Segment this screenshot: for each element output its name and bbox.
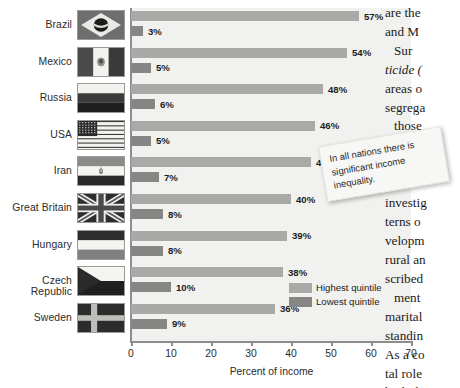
flag-czech-republic-icon [77,266,125,296]
value-label-lowest-quintile: 7% [164,172,178,183]
body-text-line: ment [385,289,460,308]
country-label-hungary: Hungary [0,239,72,250]
legend-swatch-highest-quintile [289,283,312,293]
bar-highest-quintile-mexico [131,48,347,58]
bar-lowest-quintile-mexico [131,63,151,73]
value-label-highest-quintile: 57% [364,11,383,22]
legend-label-lowest-quintile: Lowest quintile [316,296,379,307]
country-label-usa: USA [0,129,72,140]
bar-highest-quintile-great-britain [131,194,291,204]
value-label-lowest-quintile: 8% [168,209,182,220]
value-label-highest-quintile: 46% [320,120,339,131]
flag-russia-icon [77,83,125,113]
body-text-block-bottom: investigterns ovelopmrural anscribedment… [385,136,460,388]
legend-item-highest-quintile: Highest quintile [289,282,385,295]
body-text-line: terns o [385,213,460,232]
value-label-highest-quintile: 38% [288,267,307,278]
country-label-czech-republic: Czech Republic [0,275,72,297]
bar-lowest-quintile-russia [131,99,155,109]
x-tick-label: 20 [205,348,217,359]
flag-hungary-icon [77,230,125,260]
flag-usa-icon [77,120,125,150]
value-label-lowest-quintile: 10% [176,282,195,293]
x-tick-label: 30 [245,348,257,359]
bar-highest-quintile-iran [131,157,311,167]
value-label-highest-quintile: 39% [292,230,311,241]
body-text-line: scribed [385,270,460,289]
bar-highest-quintile-russia [131,84,323,94]
flag-brazil-icon [77,10,125,40]
chart-legend: Highest quintile Lowest quintile [289,282,385,309]
value-label-highest-quintile: 54% [352,47,371,58]
body-text-line: Sur [385,42,460,61]
value-label-highest-quintile: 48% [328,84,347,95]
body-text-line: marital [385,308,460,327]
body-text-line: investig [385,194,460,213]
x-tick [131,341,133,346]
bar-lowest-quintile-iran [131,172,159,182]
bar-highest-quintile-czech-republic [131,267,283,277]
body-text-line: rural an [385,251,460,270]
body-text-column: are theand MSurticide (areas osegregatho… [385,0,460,388]
legend-item-lowest-quintile: Lowest quintile [289,296,385,309]
legend-label-highest-quintile: Highest quintile [316,282,382,293]
body-text-line: both th [385,383,460,388]
country-label-iran: Iran [0,165,72,176]
bar-highest-quintile-hungary [131,231,287,241]
body-text-line: standin [385,327,460,346]
x-tick-label: 60 [365,348,377,359]
flag-iran-icon [77,156,125,186]
flag-sweden-icon [77,303,125,333]
value-label-highest-quintile: 40% [296,194,315,205]
body-text-line: tal role [385,365,460,384]
value-label-lowest-quintile: 5% [156,135,170,146]
value-label-lowest-quintile: 3% [148,26,162,37]
body-text-line: velopm [385,232,460,251]
value-label-lowest-quintile: 9% [172,318,186,329]
body-text-line: and M [385,23,460,42]
bar-lowest-quintile-sweden [131,319,167,329]
country-label-russia: Russia [0,92,72,103]
x-tick [371,341,373,346]
country-label-great-britain: Great Britain [0,202,72,213]
x-tick-label: 0 [128,348,134,359]
body-text-block-top: are theand MSurticide (areas osegregatho… [385,0,460,136]
x-tick-label: 10 [165,348,177,359]
bar-lowest-quintile-hungary [131,246,163,256]
x-tick-label: 50 [325,348,337,359]
bar-lowest-quintile-czech-republic [131,282,171,292]
flag-mexico-icon [77,47,125,77]
bar-lowest-quintile-brazil [131,26,143,36]
body-text-line: are the [385,4,460,23]
body-text-line: segrega [385,99,460,118]
value-label-lowest-quintile: 5% [156,62,170,73]
bar-highest-quintile-sweden [131,304,275,314]
bar-lowest-quintile-usa [131,136,151,146]
body-text-line: those [385,117,460,136]
value-label-lowest-quintile: 8% [168,245,182,256]
x-tick [171,341,173,346]
legend-swatch-lowest-quintile [289,297,312,307]
x-tick [211,341,213,346]
x-tick-label: 40 [285,348,297,359]
x-tick [291,341,293,346]
x-tick [251,341,253,346]
bar-highest-quintile-brazil [131,11,359,21]
country-label-sweden: Sweden [0,312,72,323]
bar-lowest-quintile-great-britain [131,209,163,219]
body-text-line: areas o [385,80,460,99]
flag-great-britain-icon [77,193,125,223]
bar-highest-quintile-usa [131,121,315,131]
value-label-lowest-quintile: 6% [160,99,174,110]
x-axis-label: Percent of income [131,366,412,377]
body-text-line: As a co [385,346,460,365]
body-text-line: ticide ( [385,61,460,80]
country-label-brazil: Brazil [0,19,72,30]
country-label-mexico: Mexico [0,56,72,67]
x-tick [331,341,333,346]
